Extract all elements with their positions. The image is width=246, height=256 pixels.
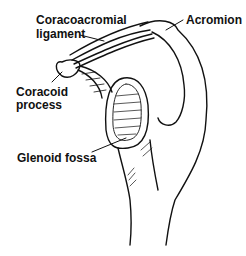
label-acromion: Acromion [186, 14, 242, 27]
label-glenoid-fossa: Glenoid fossa [17, 152, 96, 165]
label-ligament: ligament [36, 28, 85, 41]
label-process: process [16, 99, 62, 112]
label-coracoacromial: Coracoacromial [36, 14, 127, 27]
scapula-diagram: Coracoacromial ligament Acromion Coracoi… [0, 0, 246, 256]
